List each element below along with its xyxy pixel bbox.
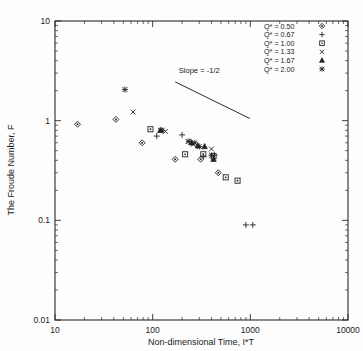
data-point-triangle <box>202 144 208 149</box>
froude-number-scatter-figure: 10100100010000 0.010.1110 Slope = -1/2 Q… <box>0 0 363 351</box>
x-tick-label: 100 <box>146 325 160 335</box>
data-point-square <box>183 152 188 157</box>
x-tick-label: 1000 <box>241 325 260 335</box>
data-point-asterisk <box>159 127 165 133</box>
y-tick-label: 10 <box>41 16 51 26</box>
x-tick-label: 10 <box>50 325 60 335</box>
x-axis-label: Non-dimensional Time, I*T <box>148 337 255 347</box>
series-square <box>148 127 240 184</box>
data-point-diamond <box>139 140 145 146</box>
data-point-plus <box>243 222 249 228</box>
y-tick-label: 1 <box>45 116 50 126</box>
x-axis-tick-labels: 10100100010000 <box>50 325 360 335</box>
data-point-asterisk <box>186 138 192 144</box>
y-tick-label: 0.1 <box>38 215 50 225</box>
data-point-diamond <box>172 156 178 162</box>
data-point-triangle <box>320 58 325 63</box>
y-tick-label: 0.01 <box>33 315 50 325</box>
data-point-square <box>223 175 228 180</box>
data-point-asterisk <box>319 66 324 71</box>
y-axis-tick-labels: 0.010.1110 <box>33 16 50 325</box>
data-point-diamond <box>75 121 81 127</box>
plot-canvas: 10100100010000 0.010.1110 Slope = -1/2 Q… <box>0 0 363 351</box>
data-point-cross <box>320 50 324 54</box>
data-point-diamond <box>113 116 119 122</box>
series-asterisk <box>122 87 215 159</box>
data-point-asterisk <box>196 144 202 150</box>
legend-label-5: Q* = 2.00 <box>264 65 295 74</box>
data-point-plus <box>250 222 256 228</box>
data-point-plus <box>179 132 185 138</box>
data-point-asterisk <box>208 152 214 158</box>
legend: Q* = 0.50Q* = 0.67Q* = 1.00Q* = 1.33Q* =… <box>264 22 325 74</box>
data-point-cross <box>131 110 136 115</box>
data-point-cross <box>209 147 214 152</box>
data-point-diamond <box>215 170 221 176</box>
data-point-square <box>148 127 153 132</box>
x-tick-label: 10000 <box>336 325 360 335</box>
slope-annotation: Slope = -1/2 <box>179 66 220 75</box>
data-point-plus <box>154 133 160 139</box>
y-axis-label: The Froude Number, F <box>6 124 16 216</box>
data-point-asterisk <box>122 87 128 93</box>
data-point-square <box>320 41 325 46</box>
slope-label: Slope = -1/2 <box>179 66 220 75</box>
data-point-diamond <box>319 23 324 28</box>
data-point-square <box>235 178 240 183</box>
data-point-plus <box>319 32 324 37</box>
data-point-asterisk <box>192 140 198 146</box>
reference-slope-line <box>175 82 250 119</box>
